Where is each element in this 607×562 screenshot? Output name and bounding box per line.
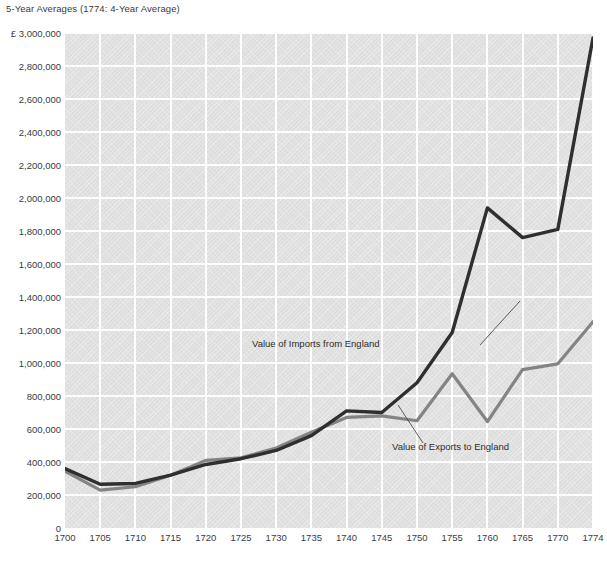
y-axis-tick-label: 600,000 (1, 424, 61, 435)
x-axis-tick-label: 1760 (477, 532, 498, 543)
series-line-imports (65, 38, 593, 484)
y-axis-tick-label: 200,000 (1, 490, 61, 501)
x-axis-tick-label: 1745 (371, 532, 392, 543)
y-axis-tick-label: 2,800,000 (1, 61, 61, 72)
y-axis-tick-label: £ 3,000,000 (1, 28, 61, 39)
y-axis-tick-label: 1,000,000 (1, 358, 61, 369)
y-axis-tick-label: 1,200,000 (1, 325, 61, 336)
x-axis-tick-label: 1770 (547, 532, 568, 543)
x-axis-tick-label: 1720 (195, 532, 216, 543)
y-axis-tick-label: 2,600,000 (1, 94, 61, 105)
x-axis-tick-label: 1755 (442, 532, 463, 543)
series-layer (65, 33, 593, 528)
chart-title: 5-Year Averages (1774: 4-Year Average) (6, 3, 180, 14)
y-axis-tick-label: 1,600,000 (1, 259, 61, 270)
x-axis-tick-label: 1700 (54, 532, 75, 543)
annotation-exports-label: Value of Exports to England (392, 441, 509, 452)
annotation-leader-exports (398, 405, 423, 443)
annotation-imports-label: Value of Imports from England (252, 338, 380, 349)
x-axis-tick-label: 1710 (125, 532, 146, 543)
y-axis-tick-label: 2,400,000 (1, 127, 61, 138)
y-axis-tick-label: 400,000 (1, 457, 61, 468)
x-axis-tick-label: 1725 (230, 532, 251, 543)
x-axis-tick-label: 1730 (266, 532, 287, 543)
x-axis-tick-label: 1740 (336, 532, 357, 543)
y-axis-tick-labels: £ 3,000,0002,800,0002,600,0002,400,0002,… (0, 33, 61, 528)
y-axis-tick-label: 0 (1, 523, 61, 534)
y-axis-tick-label: 1,800,000 (1, 226, 61, 237)
chart-container: 5-Year Averages (1774: 4-Year Average) £… (0, 0, 607, 562)
y-axis-tick-label: 2,000,000 (1, 193, 61, 204)
y-axis-tick-label: 2,200,000 (1, 160, 61, 171)
x-axis-tick-label: 1765 (512, 532, 533, 543)
x-axis-tick-label: 1705 (90, 532, 111, 543)
x-axis-tick-label: 1774 (582, 532, 603, 543)
plot-area (65, 33, 593, 528)
x-axis-tick-labels: 1700170517101715172017251730173517401745… (65, 532, 593, 552)
x-axis-tick-label: 1750 (406, 532, 427, 543)
y-axis-tick-label: 1,400,000 (1, 292, 61, 303)
annotation-leader-imports (480, 301, 520, 345)
x-axis-tick-label: 1715 (160, 532, 181, 543)
y-axis-tick-label: 800,000 (1, 391, 61, 402)
x-axis-tick-label: 1735 (301, 532, 322, 543)
